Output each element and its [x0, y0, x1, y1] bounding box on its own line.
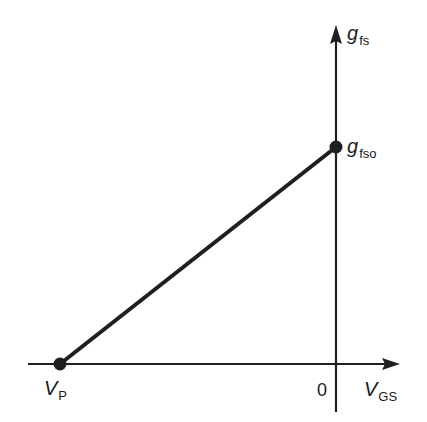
gfso-label: gfso: [347, 135, 376, 158]
vp-point: [54, 358, 67, 371]
plot-canvas: [0, 0, 427, 422]
y-axis-label: gfs: [347, 22, 369, 45]
gfs-line: [60, 147, 336, 364]
x-axis-label: VGS: [364, 378, 397, 401]
gfso-point: [330, 141, 343, 154]
origin-label: 0: [317, 380, 327, 401]
vp-label: VP: [44, 377, 67, 400]
